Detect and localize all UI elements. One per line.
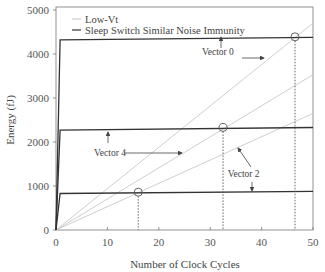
y-tick-label: 0: [44, 224, 50, 236]
y-tick-label: 1000: [27, 180, 50, 192]
low-vt-line: [56, 23, 313, 230]
y-tick-label: 3000: [27, 92, 50, 104]
x-tick-label: 40: [256, 236, 268, 248]
y-tick-label: 5000: [27, 4, 50, 16]
legend: Low-VtSleep Switch Similar Noise Immunit…: [72, 14, 246, 36]
plot-border: [56, 7, 313, 230]
legend-label: Low-Vt: [85, 14, 118, 25]
legend-label: Sleep Switch Similar Noise Immunity: [85, 25, 246, 36]
y-tick-label: 2000: [27, 136, 50, 148]
axis-ticks: 01020304050010002000300040005000: [27, 4, 319, 248]
x-tick-label: 20: [153, 236, 165, 248]
sleep-switch-line: [56, 191, 313, 230]
x-tick-label: 30: [205, 236, 217, 248]
x-tick-label: 10: [102, 236, 114, 248]
chart-series: [56, 23, 313, 230]
x-tick-label: 50: [308, 236, 320, 248]
sleep-switch-line: [56, 37, 313, 230]
sleep-switch-line: [56, 128, 313, 231]
y-axis-label: Energy (fJ): [4, 95, 17, 145]
annotation-label: Vector 0: [202, 47, 234, 57]
annotations: Vector 0Vector 4Vector 2: [94, 37, 264, 191]
annotation-label: Vector 4: [94, 148, 126, 158]
low-vt-line: [56, 113, 313, 230]
x-tick-label: 0: [53, 236, 59, 248]
arrow: [238, 148, 251, 167]
x-axis-label: Number of Clock Cycles: [130, 258, 240, 270]
energy-chart: 01020304050010002000300040005000 Vector …: [0, 0, 325, 272]
plot-frame: [56, 7, 313, 230]
annotation-label: Vector 2: [228, 169, 260, 179]
y-tick-label: 4000: [27, 48, 50, 60]
